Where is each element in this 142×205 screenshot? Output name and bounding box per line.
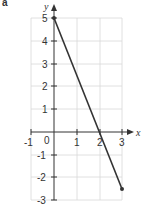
x-axis-arrow-icon <box>127 129 134 135</box>
x-axis-label: x <box>135 127 141 138</box>
y-tick-label: 5 <box>42 13 48 24</box>
y-axis <box>51 9 57 200</box>
y-tick-label: -3 <box>37 195 46 205</box>
x-tick-label: 3 <box>119 137 125 148</box>
x-tick-label: -1 <box>24 137 33 148</box>
end-point-marker <box>120 187 124 191</box>
origin-label: 0 <box>44 135 50 146</box>
y-tick-label: 4 <box>42 36 48 47</box>
y-tick-label: 3 <box>42 59 48 70</box>
x-tick-label: 1 <box>74 137 80 148</box>
y-tick-label: 2 <box>42 81 48 92</box>
y-tick-label: -1 <box>37 150 46 161</box>
line-graph: x y -1 0 1 2 3 5 4 3 2 1 -1 -2 -3 <box>0 0 142 205</box>
y-tick-label: 1 <box>42 104 48 115</box>
data-line <box>54 18 122 189</box>
y-axis-label: y <box>43 1 49 12</box>
y-axis-arrow-icon <box>51 4 57 11</box>
y-tick-label: -2 <box>37 172 46 183</box>
start-point-marker <box>52 16 56 20</box>
